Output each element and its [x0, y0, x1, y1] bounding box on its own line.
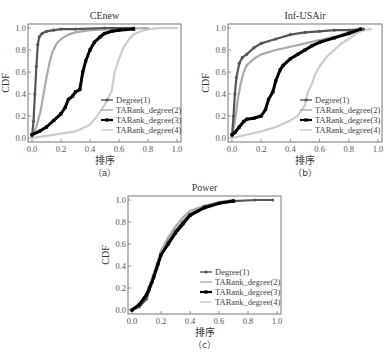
- data-point: [238, 125, 241, 128]
- x-tick-label: 1.0: [373, 144, 384, 154]
- y-tick-label: 0.2: [215, 111, 226, 121]
- data-point: [52, 29, 55, 32]
- panel-caption: （b）: [293, 168, 317, 178]
- data-point: [59, 28, 62, 31]
- data-point: [38, 130, 41, 133]
- data-point: [132, 28, 135, 31]
- y-tick-label: 0.0: [215, 133, 226, 143]
- chart-panel-c: 0.00.20.40.60.81.00.00.20.40.60.81.0Powe…: [100, 182, 282, 350]
- x-tick-label: 0.2: [156, 316, 167, 326]
- x-tick-label: 0.2: [256, 144, 267, 154]
- legend-label: TARank_degree(2): [215, 277, 281, 287]
- y-tick-label: 1.0: [215, 23, 226, 33]
- x-tick-label: 0.4: [85, 144, 96, 154]
- legend: Degree(1)TARank_degree(2)TARank_degree(3…: [200, 267, 281, 307]
- chart-panel-a: 0.00.20.40.60.81.00.00.20.40.60.81.0CEne…: [0, 10, 182, 178]
- legend-label: Degree(1): [215, 267, 250, 277]
- data-point: [311, 44, 314, 47]
- legend-marker: [204, 270, 207, 273]
- data-point: [362, 28, 365, 31]
- data-point: [59, 112, 62, 115]
- legend-label: TARank_degree(3): [215, 287, 281, 297]
- data-point: [296, 53, 299, 56]
- data-point: [99, 35, 102, 38]
- data-point: [303, 31, 306, 34]
- x-tick-label: 0.4: [285, 144, 296, 154]
- data-point: [245, 53, 248, 56]
- legend-label: TARank_degree(4): [315, 125, 381, 135]
- y-tick-label: 0.2: [15, 111, 26, 121]
- y-tick-label: 0.4: [115, 261, 126, 271]
- data-point: [233, 92, 236, 95]
- x-tick-label: 0.8: [243, 316, 254, 326]
- data-point: [303, 48, 306, 51]
- data-point: [279, 68, 282, 71]
- data-point: [93, 41, 96, 44]
- legend: Degree(1)TARank_degree(2)TARank_degree(3…: [300, 95, 381, 135]
- y-tick-label: 0.6: [115, 239, 126, 249]
- y-axis-label: CDF: [200, 73, 211, 93]
- data-point: [260, 42, 263, 45]
- data-point: [242, 120, 245, 123]
- y-tick-label: 0.0: [115, 305, 126, 315]
- data-point: [289, 57, 292, 60]
- data-point: [45, 125, 48, 128]
- x-tick-label: 0.6: [314, 144, 325, 154]
- y-tick-label: 1.0: [15, 23, 26, 33]
- data-point: [67, 98, 70, 101]
- data-point: [110, 30, 113, 33]
- data-point: [188, 214, 191, 217]
- data-point: [347, 32, 350, 35]
- data-point: [159, 253, 162, 256]
- legend-marker: [105, 98, 108, 101]
- data-point: [267, 98, 270, 101]
- legend: Degree(1)TARank_degree(2)TARank_degree(3…: [101, 95, 182, 135]
- y-tick-label: 0.4: [15, 89, 26, 99]
- y-tick-label: 0.8: [15, 45, 26, 55]
- data-point: [233, 131, 236, 134]
- y-axis-label: CDF: [100, 245, 111, 265]
- data-point: [282, 64, 285, 67]
- data-point: [138, 303, 141, 306]
- data-point: [274, 79, 277, 82]
- chart-title: Inf-USAir: [284, 10, 326, 21]
- data-point: [78, 88, 81, 91]
- data-point: [45, 30, 48, 33]
- data-point: [130, 308, 133, 311]
- data-point: [238, 62, 241, 65]
- data-point: [318, 41, 321, 44]
- chart-figure: 0.00.20.40.60.81.00.00.20.40.60.81.0CEne…: [0, 0, 386, 358]
- data-point: [274, 37, 277, 40]
- data-point: [152, 275, 155, 278]
- chart-title: CEnew: [90, 10, 120, 21]
- data-point: [217, 202, 220, 205]
- data-point: [241, 56, 244, 59]
- y-tick-label: 1.0: [115, 195, 126, 205]
- data-point: [174, 231, 177, 234]
- legend-label: TARank_degree(3): [315, 115, 381, 125]
- data-point: [74, 90, 77, 93]
- data-point: [318, 30, 321, 33]
- data-point: [71, 95, 74, 98]
- data-point: [145, 293, 148, 296]
- data-point: [167, 242, 170, 245]
- data-point: [359, 28, 362, 31]
- panel-caption: （a）: [93, 168, 117, 178]
- data-point: [36, 43, 39, 46]
- data-point: [35, 65, 38, 68]
- data-point: [117, 29, 120, 32]
- data-point: [33, 92, 36, 95]
- data-point: [254, 198, 257, 201]
- data-point: [41, 32, 44, 35]
- chart-title: Power: [192, 182, 218, 193]
- data-point: [74, 28, 77, 31]
- y-tick-label: 0.0: [15, 133, 26, 143]
- data-point: [30, 133, 33, 136]
- x-tick-label: 0.8: [143, 144, 154, 154]
- x-tick-label: 1.0: [272, 316, 283, 326]
- panel-caption: （c）: [193, 340, 216, 350]
- legend-label: TARank_degree(4): [116, 125, 182, 135]
- legend-label: TARank_degree(2): [116, 105, 182, 115]
- chart-panel-b: 0.00.20.40.60.81.00.00.20.40.60.81.0Inf-…: [200, 10, 383, 178]
- data-point: [203, 206, 206, 209]
